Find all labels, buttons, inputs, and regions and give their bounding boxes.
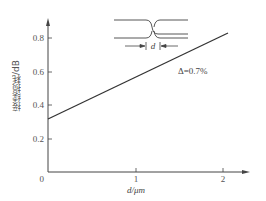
y-tick-label-0.2: 0.2	[33, 134, 44, 144]
fiber-gap-inset-icon	[114, 20, 188, 38]
y-ticks	[48, 38, 52, 139]
x-tick-label-1: 1	[134, 174, 139, 184]
x-tick-label-2: 2	[221, 174, 226, 184]
inset-gap-label: d	[151, 41, 156, 51]
y-tick-label-0.8: 0.8	[33, 33, 45, 43]
splice-loss-chart: 0.8 0.6 0.4 0.2 0 1 2 d/μm Δ=0.7% d	[0, 0, 266, 201]
x-axis-arrow-icon	[242, 170, 250, 174]
x-ticks	[136, 168, 223, 172]
y-axis-label: 接续损耗/dB	[11, 60, 23, 111]
y-tick-label-0.4: 0.4	[33, 100, 45, 110]
origin-label: 0	[40, 174, 45, 184]
x-axis-label: d/μm	[127, 185, 146, 195]
delta-annotation: Δ=0.7%	[178, 66, 208, 76]
y-axis-arrow-icon	[46, 18, 50, 26]
y-tick-label-0.6: 0.6	[33, 67, 45, 77]
